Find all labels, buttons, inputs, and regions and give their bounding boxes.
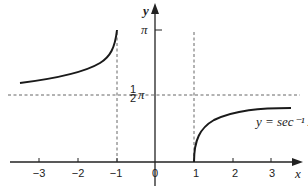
x-tick-label: 3: [269, 167, 275, 179]
x-axis-arrow-icon: [292, 158, 303, 166]
y-axis-arrow-icon: [151, 3, 159, 14]
x-tick-label: −2: [72, 167, 85, 179]
y-axis-label: y: [141, 3, 149, 18]
arcsec-graph: −3 −2 −1 0 1 2 3 x y π 1 2 π y = sec⁻¹ x: [0, 0, 308, 187]
y-tick-label-pi: π: [141, 22, 148, 37]
curve-left-branch: [20, 30, 117, 83]
function-label: y = sec⁻¹ x: [254, 114, 308, 129]
y-tick-label-half-den: 2: [130, 92, 136, 104]
y-tick-label-half-pi: π: [138, 87, 145, 102]
x-tick-label: −1: [110, 167, 123, 179]
x-tick-label: 1: [193, 167, 199, 179]
x-tick-label: −3: [33, 167, 46, 179]
x-axis-label: x: [294, 166, 301, 181]
x-tick-label: 2: [232, 167, 238, 179]
x-tick-label: 0: [152, 167, 158, 179]
